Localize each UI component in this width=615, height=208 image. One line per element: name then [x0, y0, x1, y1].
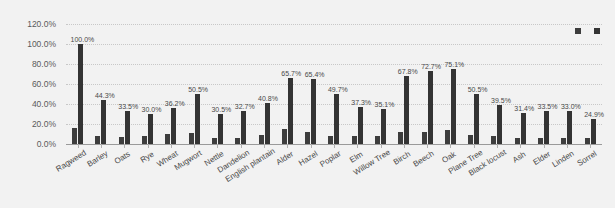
bar-jp[interactable]: [422, 132, 427, 145]
x-axis-label-slot: Barley: [89, 149, 112, 207]
x-tickmark: [462, 144, 485, 148]
bar-groups: 100.0%44.3%33.5%30.0%36.2%50.5%30.5%32.7…: [66, 24, 602, 144]
y-axis: 0.0%20.0%40.0%60.0%80.0%100.0%120.0%: [0, 24, 62, 144]
bar-jp[interactable]: [328, 136, 333, 144]
bar-group: 39.5%: [485, 24, 508, 144]
bar-jp[interactable]: [491, 136, 496, 144]
x-tickmark: [182, 144, 205, 148]
x-tickmark: [276, 144, 299, 148]
bar-jp[interactable]: [468, 135, 473, 145]
bar-cp[interactable]: [497, 105, 502, 145]
bar-jp[interactable]: [375, 136, 380, 145]
bar-chart: 0.0%20.0%40.0%60.0%80.0%100.0%120.0% 100…: [0, 0, 615, 208]
bar-value-label: 24.9%: [584, 111, 604, 118]
x-axis-label-slot: Wheat: [159, 149, 182, 207]
bar-cp[interactable]: [241, 111, 246, 144]
x-axis-label-slot: Plane Tree: [462, 149, 485, 207]
bar-group: 72.7%: [415, 24, 438, 144]
x-tickmark: [415, 144, 438, 148]
x-axis-label: Birch: [392, 149, 412, 166]
bar-group: 50.5%: [182, 24, 205, 144]
x-axis-label-slot: Mugwort: [182, 149, 205, 207]
x-axis-label: Alder: [275, 149, 296, 167]
bar-jp[interactable]: [445, 130, 450, 144]
bar-cp[interactable]: [288, 78, 293, 144]
bar-jp[interactable]: [282, 129, 287, 145]
x-axis-label-slot: Oats: [113, 149, 136, 207]
bar-group: 31.4%: [509, 24, 532, 144]
x-axis-label-slot: Poplar: [322, 149, 345, 207]
bar-group: 37.3%: [346, 24, 369, 144]
x-tickmarks: [66, 144, 602, 148]
bar-jp[interactable]: [259, 135, 264, 144]
y-axis-tick-label: 60.0%: [32, 79, 56, 89]
x-tickmark: [346, 144, 369, 148]
bar-cp[interactable]: [591, 119, 596, 144]
bar-cp[interactable]: [404, 76, 409, 144]
x-axis-label-slot: Elder: [532, 149, 555, 207]
bar-cp[interactable]: [171, 108, 176, 144]
bar-cp[interactable]: [78, 44, 83, 144]
bar-cp[interactable]: [358, 107, 363, 144]
bar-cp[interactable]: [218, 114, 223, 145]
x-tickmark: [392, 144, 415, 148]
bar-cp[interactable]: [125, 111, 130, 145]
x-tickmark: [89, 144, 112, 148]
bar-group: 75.1%: [439, 24, 462, 144]
x-tickmark: [299, 144, 322, 148]
bar-group: 65.7%: [276, 24, 299, 144]
bar-cp[interactable]: [474, 94, 479, 145]
x-tickmark: [113, 144, 136, 148]
bar-group: 33.5%: [532, 24, 555, 144]
x-tickmark: [206, 144, 229, 148]
x-axis-label: Poplar: [318, 149, 342, 169]
bar-group: 65.4%: [299, 24, 322, 144]
x-axis-label-slot: Hazel: [299, 149, 322, 207]
bar-cp[interactable]: [334, 94, 339, 144]
y-axis-tick-label: 80.0%: [32, 59, 56, 69]
x-axis-label-slot: Sorrel: [579, 149, 602, 207]
x-axis-label: Barley: [85, 149, 109, 169]
bar-cp[interactable]: [428, 71, 433, 144]
bar-cp[interactable]: [451, 69, 456, 144]
x-axis-label: Ash: [511, 150, 527, 165]
bar-group: 30.0%: [136, 24, 159, 144]
x-tickmark: [66, 144, 89, 148]
bar-cp[interactable]: [544, 111, 549, 145]
x-tickmark: [322, 144, 345, 148]
x-axis-label: Hazel: [297, 149, 319, 167]
x-axis-label-slot: Willow Tree: [369, 149, 392, 207]
x-axis: RagweedBarleyOatsRyeWheatMugwortNettleDa…: [66, 144, 602, 208]
bar-group: 33.0%: [555, 24, 578, 144]
bar-group: 33.5%: [113, 24, 136, 144]
y-axis-tick-label: 0.0%: [37, 139, 56, 149]
plot-area: 100.0%44.3%33.5%30.0%36.2%50.5%30.5%32.7…: [66, 24, 602, 144]
bar-jp[interactable]: [398, 132, 403, 144]
x-axis-label-slot: Birch: [392, 149, 415, 207]
x-axis-label-slot: English plantain: [252, 149, 275, 207]
bar-group: 40.8%: [252, 24, 275, 144]
bar-jp[interactable]: [352, 136, 357, 144]
bar-jp[interactable]: [189, 133, 194, 145]
x-axis-label: Ragweed: [54, 148, 87, 174]
bar-jp[interactable]: [95, 136, 100, 144]
x-axis-label: Beech: [412, 149, 436, 169]
x-axis-label: Oats: [113, 149, 132, 166]
bar-cp[interactable]: [265, 103, 270, 144]
bar-cp[interactable]: [521, 113, 526, 144]
bar-jp[interactable]: [305, 132, 310, 145]
bar-cp[interactable]: [148, 114, 153, 144]
bar-cp[interactable]: [101, 100, 106, 144]
x-axis-label-slot: Oak: [439, 149, 462, 207]
y-axis-tick-label: 100.0%: [27, 39, 56, 49]
bar-cp[interactable]: [381, 109, 386, 144]
bar-jp[interactable]: [165, 134, 170, 144]
bar-cp[interactable]: [567, 111, 572, 144]
bar-cp[interactable]: [311, 79, 316, 144]
bar-jp[interactable]: [119, 137, 124, 145]
bar-jp[interactable]: [72, 128, 77, 144]
x-tickmark: [136, 144, 159, 148]
bar-cp[interactable]: [195, 94, 200, 145]
x-axis-label: Sorrel: [576, 149, 599, 168]
bar-jp[interactable]: [142, 136, 147, 145]
